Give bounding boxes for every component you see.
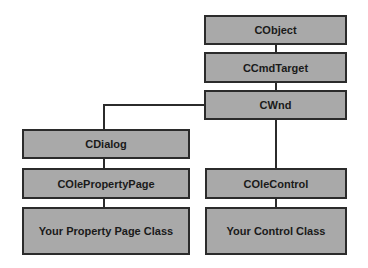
node-cdialog: CDialog — [22, 129, 190, 159]
connector-cwnd-cdialog-vertical — [103, 104, 105, 130]
node-your-property-page-class: Your Property Page Class — [22, 207, 190, 255]
node-cobject: CObject — [204, 15, 347, 45]
node-colecontrol: COleControl — [205, 168, 347, 199]
node-cwnd: CWnd — [204, 90, 347, 120]
connector-cwnd-left-horizontal — [103, 104, 205, 106]
connector-cwnd-colecontrol — [275, 119, 277, 169]
node-ccmdtarget: CCmdTarget — [204, 52, 347, 83]
node-colepropertypage: COlePropertyPage — [22, 168, 190, 199]
node-your-control-class: Your Control Class — [205, 207, 347, 255]
